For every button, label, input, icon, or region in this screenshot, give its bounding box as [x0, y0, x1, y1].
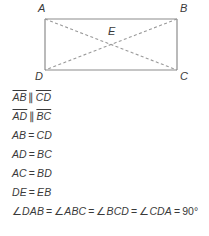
property-ad-parallel-bc: AD∥BC [0, 107, 209, 126]
equals-symbol: = [86, 205, 96, 217]
equals-symbol: = [27, 148, 37, 160]
vertex-label-d: D [35, 70, 43, 82]
label-de: DE [12, 186, 27, 198]
equals-symbol: = [129, 205, 139, 217]
segment-ab: AB [12, 91, 27, 103]
parallel-symbol: ∥ [28, 110, 36, 122]
label-cd: CD [36, 129, 51, 141]
label-ac: AC [12, 167, 27, 179]
vertex-label-a: A [37, 2, 45, 14]
label-ad: AD [12, 148, 27, 160]
rectangle-diagram-svg: ABCDE [0, 0, 209, 88]
property-ab-equals-cd: AB=CD [0, 126, 209, 145]
property-all-angles-90: ∠DAB=∠ABC=∠BCD=∠CDA=90° [0, 202, 209, 221]
equals-symbol: = [172, 205, 182, 217]
vertex-label-c: C [180, 70, 188, 82]
segment-cd: CD [35, 91, 51, 103]
equals-symbol: = [44, 205, 54, 217]
label-bd: BD [37, 167, 52, 179]
equals-symbol: = [27, 167, 37, 179]
label-bcd: BCD [107, 205, 129, 217]
properties-list: AB∥CDAD∥BCAB=CDAD=BCAC=BDDE=EB∠DAB=∠ABC=… [0, 88, 209, 221]
label-abc: ABC [64, 205, 86, 217]
degree-value: 90° [182, 205, 198, 217]
label-bc: BC [37, 148, 52, 160]
geometry-figure: ABCDE [0, 0, 209, 88]
property-ad-equals-bc: AD=BC [0, 145, 209, 164]
vertex-label-b: B [180, 2, 187, 14]
segment-ad: AD [12, 110, 28, 122]
property-de-equals-eb: DE=EB [0, 183, 209, 202]
angle-symbol: ∠ [54, 205, 64, 217]
vertex-label-e: E [108, 25, 116, 37]
equals-symbol: = [27, 186, 37, 198]
equals-symbol: = [26, 129, 36, 141]
property-ac-equals-bd: AC=BD [0, 164, 209, 183]
angle-symbol: ∠ [96, 205, 106, 217]
segment-bc: BC [36, 110, 52, 122]
label-ab: AB [12, 129, 26, 141]
angle-symbol: ∠ [139, 205, 149, 217]
property-ab-parallel-cd: AB∥CD [0, 88, 209, 107]
label-cda: CDA [149, 205, 171, 217]
label-eb: EB [37, 186, 51, 198]
angle-symbol: ∠ [12, 205, 22, 217]
label-dab: DAB [22, 205, 44, 217]
